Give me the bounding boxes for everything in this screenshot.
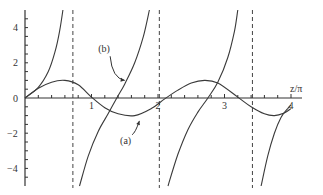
x-tick-label: 3 xyxy=(222,100,227,111)
x-axis-label: z/π xyxy=(290,83,302,94)
y-tick-label: −2 xyxy=(7,128,18,139)
annotation-arrow xyxy=(110,56,125,80)
y-tick-label: 2 xyxy=(13,57,18,68)
asymptote-lines xyxy=(73,10,253,188)
y-tick-label: −4 xyxy=(7,163,18,174)
arrowhead-icon xyxy=(120,78,124,82)
axes xyxy=(25,10,302,186)
chart: 1234420−2−4 (a)(b) z/π xyxy=(0,0,323,195)
annotation-label: (a) xyxy=(120,135,131,147)
y-tick-label: 0 xyxy=(13,93,18,104)
x-tick-label: 1 xyxy=(89,100,94,111)
annotation-label: (b) xyxy=(98,43,110,55)
series-b-curve xyxy=(261,105,291,186)
y-tick-label: 4 xyxy=(13,22,18,33)
arrowhead-icon xyxy=(136,121,140,125)
